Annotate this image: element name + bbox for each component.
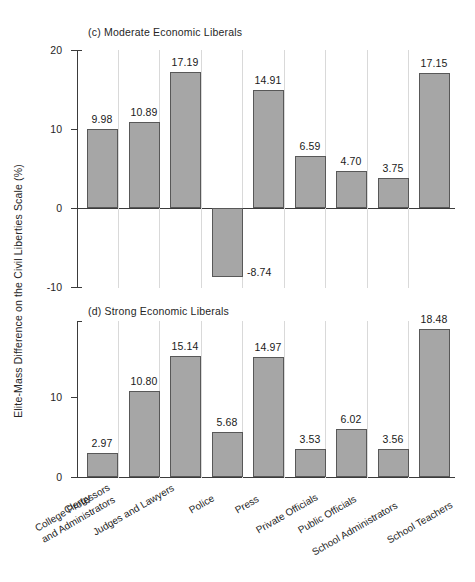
- gridline: [367, 321, 368, 478]
- xtick-label-line: School Administrators: [310, 500, 399, 558]
- panel-d-y-axis-line: [77, 321, 78, 478]
- gridline: [118, 50, 119, 288]
- bar-value-press: 14.91: [255, 74, 282, 86]
- bar-value-clergy: 2.97: [92, 437, 113, 449]
- bar-value-school-administrators: 3.56: [383, 433, 404, 445]
- bar-value-press: 14.97: [255, 341, 282, 353]
- figure-panels-c-and-d: Elite-Mass Difference on the Civil Liber…: [0, 0, 475, 582]
- bar-value-public-officials: 6.02: [341, 413, 362, 425]
- bar-value-school-administrators: 3.75: [383, 162, 404, 174]
- gridline: [284, 50, 285, 288]
- bar-value-judges-lawyers: 17.19: [172, 56, 199, 68]
- bar-school-administrators[interactable]: [378, 178, 409, 208]
- bar-clergy[interactable]: [87, 129, 118, 208]
- panel-c-ytick-label: 20: [50, 44, 62, 56]
- panel-d-ytick-label: 10: [50, 391, 62, 403]
- panel-c-y-axis-line: [77, 50, 78, 288]
- panel-c-plot-area: 20 10 0 -10 9.98 10.89 17.19 -8.74 14.91…: [77, 50, 455, 288]
- xtick-label-college-professors[interactable]: College Professors and Administrators: [33, 482, 119, 546]
- xtick-label-line: Police: [187, 492, 216, 515]
- gridline: [408, 50, 409, 288]
- panel-d-axis-top-cap: [77, 321, 82, 322]
- bar-value-college-professors: 10.80: [131, 375, 158, 387]
- gridline: [367, 50, 368, 288]
- bar-value-school-teachers: 17.15: [421, 57, 448, 69]
- xtick-label-school-administrators[interactable]: School Administrators: [310, 500, 400, 559]
- x-axis-category-labels: Clergy College Professors and Administra…: [0, 478, 475, 582]
- panel-c-ytick-label: -10: [47, 281, 62, 293]
- bar-value-private-officials: 3.53: [300, 433, 321, 445]
- bar-college-professors[interactable]: [129, 391, 160, 477]
- bar-value-college-professors: 10.89: [131, 106, 158, 118]
- bar-press[interactable]: [253, 90, 284, 208]
- bar-value-police: 5.68: [217, 416, 238, 428]
- bar-value-police: -8.74: [247, 266, 271, 278]
- bar-school-teachers[interactable]: [419, 73, 450, 208]
- xtick-label-press[interactable]: Press: [233, 493, 261, 517]
- xtick-label-police[interactable]: Police: [187, 492, 217, 516]
- bar-value-private-officials: 6.59: [300, 140, 321, 152]
- panel-d-title: (d) Strong Economic Liberals: [88, 305, 229, 317]
- panel-c-title: (c) Moderate Economic Liberals: [88, 26, 242, 38]
- panel-c-axis-bottom-cap: [77, 287, 82, 288]
- bar-judges-lawyers[interactable]: [170, 72, 201, 208]
- bar-police[interactable]: [212, 432, 243, 477]
- bar-school-administrators[interactable]: [378, 449, 409, 477]
- bar-value-school-teachers: 18.48: [421, 313, 448, 325]
- panel-c-ytick-label: 10: [50, 123, 62, 135]
- bar-school-teachers[interactable]: [419, 329, 450, 477]
- panel-c-ytick-label: 0: [56, 202, 62, 214]
- bar-press[interactable]: [253, 357, 284, 477]
- bar-police[interactable]: [212, 208, 243, 277]
- bar-private-officials[interactable]: [295, 449, 326, 477]
- bar-public-officials[interactable]: [336, 171, 367, 208]
- gridline: [284, 321, 285, 478]
- gridline: [118, 321, 119, 478]
- bar-public-officials[interactable]: [336, 429, 367, 477]
- gridline: [201, 321, 202, 478]
- panel-c-zero-line: [77, 208, 455, 209]
- panel-c-axis-top-cap: [77, 50, 82, 51]
- xtick-label-line: Press: [233, 493, 261, 515]
- panel-d-plot-area: 10 0 2.97 10.80 15.14 5.68 14.97 3.53 6.…: [77, 321, 455, 478]
- bar-value-public-officials: 4.70: [341, 155, 362, 167]
- bar-judges-lawyers[interactable]: [170, 356, 201, 477]
- bar-college-professors[interactable]: [129, 122, 160, 208]
- bar-value-judges-lawyers: 15.14: [172, 340, 199, 352]
- bar-clergy[interactable]: [87, 453, 118, 477]
- bar-value-clergy: 9.98: [92, 113, 113, 125]
- bar-private-officials[interactable]: [295, 156, 326, 208]
- gridline: [201, 50, 202, 288]
